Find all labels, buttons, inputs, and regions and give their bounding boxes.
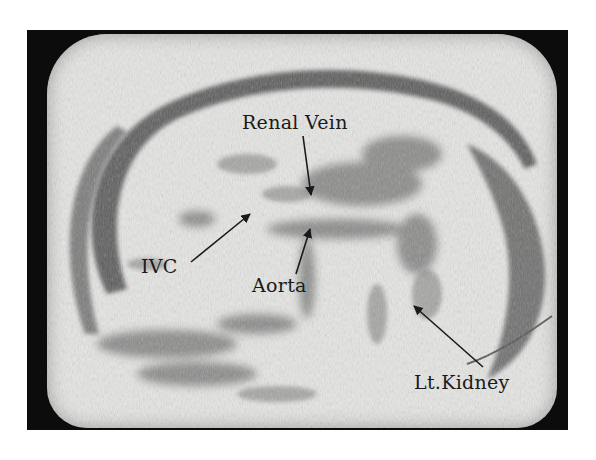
label-aorta: Aorta (252, 275, 307, 295)
label-lt-kidney: Lt.Kidney (414, 372, 510, 392)
ultrasound-screen (47, 34, 557, 428)
label-ivc: IVC (141, 256, 178, 276)
crt-monitor-frame (27, 30, 568, 430)
label-renal-vein: Renal Vein (242, 112, 348, 132)
ultrasound-image (47, 34, 557, 428)
